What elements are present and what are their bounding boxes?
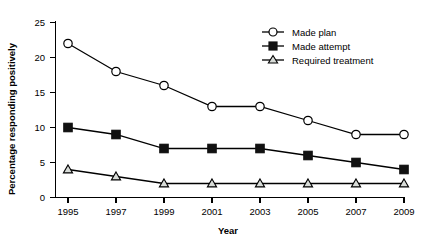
- x-axis-title: Year: [218, 225, 238, 236]
- y-tick-label: 0: [40, 192, 45, 203]
- data-point: [256, 144, 264, 152]
- y-tick-label: 15: [34, 87, 45, 98]
- data-point: [304, 151, 312, 159]
- data-point: [400, 130, 408, 138]
- data-point: [352, 130, 360, 138]
- x-tick-label: 1997: [105, 206, 126, 217]
- open-triangle-icon: [268, 56, 277, 64]
- axis-lines: [56, 21, 406, 198]
- line-chart: Percentage responding positively Year 0 …: [0, 0, 422, 244]
- y-axis-ticks: [50, 23, 56, 198]
- data-point: [64, 123, 72, 131]
- y-tick-label: 5: [40, 157, 45, 168]
- data-point: [400, 165, 408, 173]
- y-tick-label: 25: [34, 17, 45, 28]
- x-axis-ticks: [68, 198, 404, 204]
- data-point: [160, 144, 168, 152]
- legend-item-made-plan[interactable]: Made plan: [262, 27, 336, 38]
- x-axis-tick-labels: 1995 1997 1999 2001 2003 2005 2007 2009: [57, 206, 414, 217]
- data-point: [304, 116, 312, 124]
- y-tick-label: 10: [34, 122, 45, 133]
- x-tick-label: 1995: [57, 206, 78, 217]
- legend-item-made-attempt[interactable]: Made attempt: [262, 41, 350, 52]
- chart-container: Percentage responding positively Year 0 …: [0, 0, 422, 244]
- data-point: [208, 102, 216, 110]
- data-point: [64, 39, 72, 47]
- data-point: [112, 67, 120, 75]
- data-point: [256, 102, 264, 110]
- data-point: [63, 165, 72, 173]
- data-point: [160, 81, 168, 89]
- legend-label: Made plan: [292, 27, 336, 38]
- legend: Made plan Made attempt Required treatmen…: [262, 27, 374, 66]
- x-tick-label: 2005: [297, 206, 318, 217]
- legend-label: Required treatment: [292, 55, 374, 66]
- x-tick-label: 2003: [249, 206, 270, 217]
- x-tick-label: 1999: [153, 206, 174, 217]
- open-circle-icon: [269, 28, 277, 36]
- filled-square-icon: [269, 42, 277, 50]
- y-axis-tick-labels: 0 5 10 15 20 25: [34, 17, 45, 203]
- x-tick-label: 2009: [393, 206, 414, 217]
- data-point: [112, 130, 120, 138]
- data-point: [208, 144, 216, 152]
- series-required-treatment: [63, 165, 408, 187]
- x-tick-label: 2007: [345, 206, 366, 217]
- legend-label: Made attempt: [292, 41, 350, 52]
- y-tick-label: 20: [34, 52, 45, 63]
- x-tick-label: 2001: [201, 206, 222, 217]
- data-point: [352, 158, 360, 166]
- y-axis-title: Percentage responding positively: [6, 42, 17, 195]
- legend-item-required-treatment[interactable]: Required treatment: [262, 55, 374, 66]
